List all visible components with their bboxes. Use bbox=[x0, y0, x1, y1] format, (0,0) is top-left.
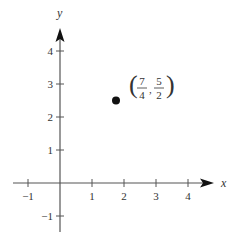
data-points bbox=[112, 97, 120, 105]
x-axis-label: x bbox=[220, 176, 227, 190]
data-point bbox=[112, 97, 120, 105]
x-tick-label: −1 bbox=[22, 190, 34, 202]
y-tick-label: 3 bbox=[48, 78, 54, 90]
x-tick-label: 3 bbox=[153, 190, 159, 202]
y-numerator: 5 bbox=[156, 75, 162, 87]
y-tick-label: −1 bbox=[41, 210, 53, 222]
x-numerator: 7 bbox=[139, 75, 145, 87]
plot-svg: xy −11234−11234 (74,52) bbox=[0, 0, 235, 236]
x-denominator: 4 bbox=[139, 89, 145, 101]
left-paren: ( bbox=[129, 70, 138, 99]
axes: xy bbox=[13, 6, 227, 232]
point-annotation: (74,52) bbox=[129, 70, 175, 101]
x-tick-label: 1 bbox=[89, 190, 95, 202]
y-tick-label: 4 bbox=[48, 45, 54, 57]
comma: , bbox=[149, 83, 152, 95]
y-tick-label: 2 bbox=[48, 111, 54, 123]
y-denominator: 2 bbox=[156, 89, 162, 101]
y-axis-label: y bbox=[56, 6, 63, 20]
x-tick-label: 4 bbox=[185, 190, 191, 202]
coordinate-plane: xy −11234−11234 (74,52) bbox=[0, 0, 235, 236]
y-tick-label: 1 bbox=[48, 144, 54, 156]
x-tick-label: 2 bbox=[121, 190, 127, 202]
right-paren: ) bbox=[166, 70, 175, 99]
